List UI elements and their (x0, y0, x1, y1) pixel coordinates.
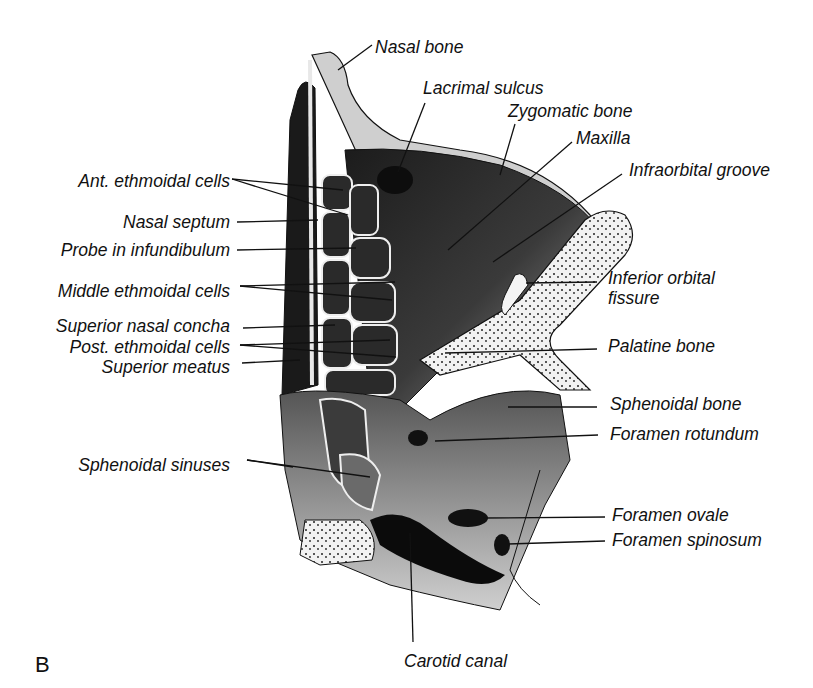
label-zygomatic-bone: Zygomatic bone (508, 101, 633, 121)
label-superior-meatus: Superior meatus (102, 357, 230, 377)
label-sphenoidal-bone: Sphenoidal bone (610, 394, 741, 414)
label-sphenoidal-sinuses: Sphenoidal sinuses (78, 455, 230, 475)
foramen-rotundum-shape (408, 430, 428, 446)
label-nasal-septum: Nasal septum (123, 212, 230, 232)
foramen-spinosum-shape (494, 534, 510, 556)
label-maxilla: Maxilla (576, 128, 630, 148)
label-carotid-canal: Carotid canal (404, 651, 507, 671)
foramen-ovale-shape (448, 509, 488, 527)
panel-letter: B (35, 652, 50, 678)
label-probe-infundibulum: Probe in infundibulum (61, 240, 230, 260)
label-infraorbital-groove: Infraorbital groove (629, 160, 770, 180)
label-lacrimal-sulcus: Lacrimal sulcus (423, 78, 544, 98)
label-post-ethmoidal-cells: Post. ethmoidal cells (70, 337, 231, 357)
anatomy-figure: B Nasal boneLacrimal sulcusZygomatic bon… (0, 0, 813, 688)
label-middle-ethmoidal-cells: Middle ethmoidal cells (58, 281, 230, 301)
septum-bone-edge (310, 60, 312, 385)
label-palatine-bone: Palatine bone (608, 336, 715, 356)
leader-nasal-bone (338, 45, 372, 70)
label-nasal-bone: Nasal bone (375, 37, 464, 57)
sphenoid-base-section (300, 520, 374, 565)
label-ant-ethmoidal-cells: Ant. ethmoidal cells (78, 171, 230, 191)
label-foramen-spinosum: Foramen spinosum (612, 530, 762, 550)
label-line: fissure (608, 288, 715, 308)
label-foramen-ovale: Foramen ovale (612, 505, 729, 525)
label-inferior-orbital-fissure: Inferior orbitalfissure (608, 268, 715, 308)
label-line: Inferior orbital (608, 268, 715, 288)
label-foramen-rotundum: Foramen rotundum (610, 424, 759, 444)
lacrimal-sulcus-shape (377, 166, 413, 194)
label-superior-nasal-concha: Superior nasal concha (56, 316, 230, 336)
